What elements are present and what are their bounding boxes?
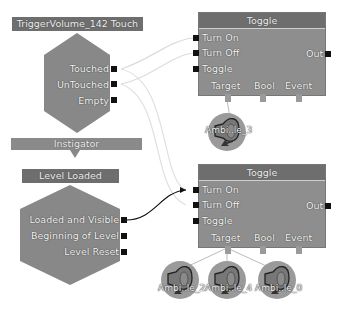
output-untouched-port[interactable] xyxy=(111,81,117,87)
instigator-arrow-icon xyxy=(70,150,80,158)
toggle-1-var-target: Target xyxy=(211,80,240,91)
toggle-1-toggle-port[interactable] xyxy=(193,66,199,72)
output-beginning-level-label: Beginning of Level xyxy=(31,230,119,241)
output-touched-port[interactable] xyxy=(111,66,117,72)
speaker-icon xyxy=(257,260,297,300)
output-beginning-level-port[interactable] xyxy=(121,233,127,239)
output-level-reset-port[interactable] xyxy=(121,249,127,255)
ambient-sound-node-4[interactable] xyxy=(207,260,247,300)
toggle-1-turn-off-label: Turn Off xyxy=(202,47,239,58)
toggle-1-toggle-label: Toggle xyxy=(202,63,233,74)
toggle-1-turn-on-port[interactable] xyxy=(193,35,199,41)
ambient-sound-label-3: Ambi..le_3 xyxy=(205,125,252,135)
touch-event-title[interactable]: TriggerVolume_142 Touch xyxy=(12,17,143,31)
toggle-1-turn-off-port[interactable] xyxy=(193,50,199,56)
output-loaded-visible-port[interactable] xyxy=(121,217,127,223)
output-untouched-label: UnTouched xyxy=(57,79,109,90)
toggle-2-turn-off-port[interactable] xyxy=(193,202,199,208)
toggle-2-var-bool: Bool xyxy=(254,232,275,243)
toggle-1-title: Toggle xyxy=(199,13,325,29)
toggle-1-turn-on-label: Turn On xyxy=(202,32,239,43)
ambient-sound-label-0: Ambi..le_0 xyxy=(255,283,302,293)
toggle-2-toggle-port[interactable] xyxy=(193,218,199,224)
toggle-2-turn-on-port[interactable] xyxy=(193,187,199,193)
toggle-1-out-port[interactable] xyxy=(325,51,331,57)
toggle-1-var-bool: Bool xyxy=(254,80,275,91)
ambient-sound-node-0[interactable] xyxy=(257,260,297,300)
instigator-variable-bar[interactable]: Instigator xyxy=(11,138,142,150)
toggle-1-event-link[interactable] xyxy=(296,94,302,102)
toggle-1-bool-link[interactable] xyxy=(260,94,266,102)
ambient-sound-label-4: Ambi..le_4 xyxy=(205,283,252,293)
toggle-2-out-port[interactable] xyxy=(325,203,331,209)
toggle-2-turn-off-label: Turn Off xyxy=(202,199,239,210)
toggle-2-target-link[interactable] xyxy=(225,246,231,254)
toggle-1-out-label: Out xyxy=(306,48,323,59)
ambient-sound-label-2: Ambi..le_2 xyxy=(158,283,205,293)
output-empty-label: Empty xyxy=(78,95,109,106)
toggle-2-bool-link[interactable] xyxy=(260,246,266,254)
toggle-2-turn-on-label: Turn On xyxy=(202,184,239,195)
level-loaded-title[interactable]: Level Loaded xyxy=(22,169,119,183)
output-level-reset-label: Level Reset xyxy=(64,246,119,257)
speaker-icon xyxy=(207,260,247,300)
speaker-icon xyxy=(160,260,200,300)
toggle-2-title: Toggle xyxy=(199,165,325,181)
output-loaded-visible-label: Loaded and Visible xyxy=(29,214,119,225)
ambient-sound-node-2[interactable] xyxy=(160,260,200,300)
output-touched-label: Touched xyxy=(70,63,109,74)
toggle-2-out-label: Out xyxy=(306,200,323,211)
toggle-1-target-link[interactable] xyxy=(225,94,231,102)
output-empty-port[interactable] xyxy=(111,97,117,103)
toggle-1-var-event: Event xyxy=(285,80,312,91)
toggle-2-var-target: Target xyxy=(211,232,240,243)
toggle-2-event-link[interactable] xyxy=(296,246,302,254)
toggle-2-var-event: Event xyxy=(285,232,312,243)
toggle-2-toggle-label: Toggle xyxy=(202,215,233,226)
